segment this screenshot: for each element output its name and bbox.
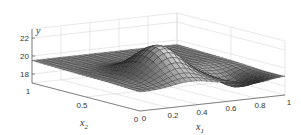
z-tick-label: 22 — [20, 34, 29, 43]
x2-tick-label: 0.5 — [76, 101, 88, 110]
x1-tick-label: 1 — [287, 98, 292, 107]
x1-tick-label: 0.2 — [167, 111, 179, 120]
z-tick-label: 20 — [20, 52, 29, 61]
x1-tick-label: 0.4 — [196, 108, 208, 117]
surface-plot: 18202200.5100.20.40.60.81 y x2 x1 — [0, 0, 301, 135]
x1-tick-label: 0 — [142, 114, 147, 123]
x1-axis-label: x1 — [195, 121, 204, 135]
x1-tick-label: 0.6 — [225, 104, 237, 113]
z-tick-label: 18 — [20, 70, 29, 79]
x2-tick-label: 0 — [134, 115, 139, 124]
x2-tick-label: 1 — [26, 87, 31, 96]
x1-tick-label: 0.8 — [254, 101, 266, 110]
z-axis-label: y — [35, 25, 41, 36]
x2-axis-label: x2 — [79, 117, 88, 131]
